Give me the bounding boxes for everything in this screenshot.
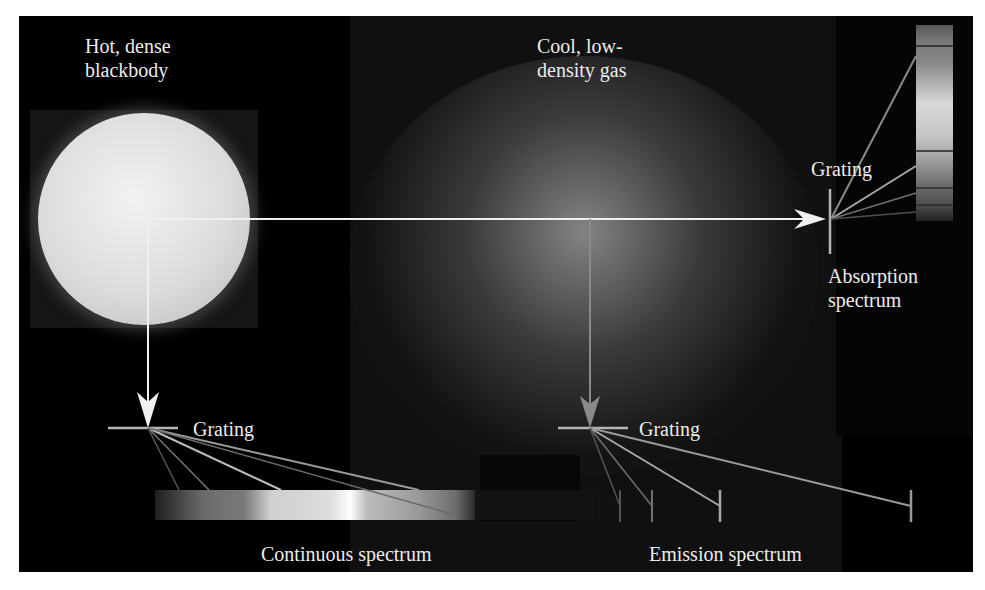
- emission-grating: [558, 428, 911, 522]
- label-gas-line2: density gas: [537, 58, 626, 82]
- light-path: [137, 209, 826, 428]
- label-gas: Cool, low- density gas: [537, 34, 626, 82]
- absorption-lines: [916, 46, 953, 205]
- label-grating-continuous: Grating: [193, 417, 254, 441]
- label-grating-absorption: Grating: [811, 157, 872, 181]
- label-absorption-spectrum: Absorption spectrum: [828, 264, 918, 312]
- label-gas-line1: Cool, low-: [537, 34, 626, 58]
- label-emission-spectrum: Emission spectrum: [649, 542, 802, 566]
- label-blackbody-line2: blackbody: [85, 58, 171, 82]
- continuous-grating: [108, 428, 459, 516]
- label-absorption-line1: Absorption: [828, 264, 918, 288]
- label-absorption-line2: spectrum: [828, 288, 918, 312]
- label-continuous-spectrum: Continuous spectrum: [261, 542, 432, 566]
- diagram-canvas: Hot, dense blackbody Cool, low- density …: [19, 16, 973, 572]
- label-blackbody: Hot, dense blackbody: [85, 34, 171, 82]
- label-grating-emission: Grating: [639, 417, 700, 441]
- absorption-grating: [830, 56, 916, 254]
- label-blackbody-line1: Hot, dense: [85, 34, 171, 58]
